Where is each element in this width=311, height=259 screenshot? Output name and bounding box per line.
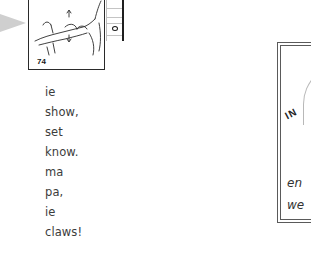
verse-line: know. bbox=[45, 142, 82, 162]
tab-rule bbox=[107, 35, 122, 36]
book-tab bbox=[106, 0, 124, 41]
verse-line: ma bbox=[45, 162, 82, 182]
verse-line: ie bbox=[45, 82, 82, 102]
stamp-text: IN bbox=[283, 106, 299, 121]
verse-text: ie show, set know. ma pa, ie claws! bbox=[45, 82, 82, 242]
verse-line: claws! bbox=[45, 222, 82, 242]
verse-line: show, bbox=[45, 102, 82, 122]
tab-knob-icon bbox=[112, 26, 118, 31]
tab-rule bbox=[107, 8, 122, 9]
verse-line: ie bbox=[45, 202, 82, 222]
panel-line: en bbox=[287, 176, 302, 190]
arc-decoration bbox=[303, 64, 311, 125]
pointer-arrow-icon bbox=[0, 14, 26, 32]
illustration-frame: 74 bbox=[28, 0, 105, 70]
page-number: 74 bbox=[37, 57, 46, 66]
side-panel: IN en we bbox=[277, 42, 311, 223]
tab-rule bbox=[107, 23, 122, 24]
panel-line: we bbox=[287, 198, 304, 212]
tab-rule bbox=[107, 17, 122, 18]
verse-line: set bbox=[45, 122, 82, 142]
verse-line: pa, bbox=[45, 182, 82, 202]
